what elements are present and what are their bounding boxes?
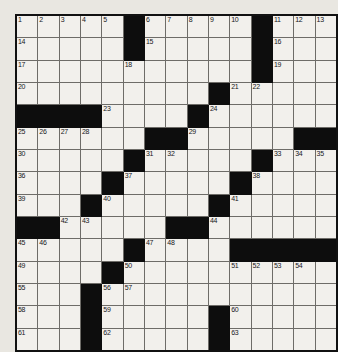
crossword-cell[interactable] — [230, 60, 251, 82]
crossword-cell[interactable] — [230, 283, 251, 305]
crossword-cell[interactable]: 21 — [230, 82, 251, 104]
crossword-cell[interactable] — [208, 239, 229, 261]
crossword-cell[interactable]: 20 — [16, 82, 38, 104]
crossword-cell[interactable] — [272, 127, 293, 149]
crossword-cell[interactable]: 29 — [187, 127, 208, 149]
crossword-cell[interactable] — [187, 60, 208, 82]
crossword-cell[interactable] — [272, 82, 293, 104]
crossword-cell[interactable] — [80, 172, 101, 194]
crossword-cell[interactable] — [230, 127, 251, 149]
crossword-cell[interactable] — [230, 149, 251, 171]
crossword-cell[interactable]: 2 — [38, 15, 59, 38]
crossword-cell[interactable]: 3 — [59, 15, 80, 38]
crossword-cell[interactable] — [272, 105, 293, 127]
crossword-cell[interactable] — [294, 194, 315, 216]
crossword-cell[interactable]: 8 — [187, 15, 208, 38]
crossword-cell[interactable] — [144, 261, 165, 283]
crossword-cell[interactable]: 40 — [102, 194, 123, 216]
crossword-cell[interactable] — [102, 60, 123, 82]
crossword-cell[interactable]: 11 — [272, 15, 293, 38]
crossword-cell[interactable]: 18 — [123, 60, 144, 82]
crossword-cell[interactable] — [38, 283, 59, 305]
crossword-cell[interactable] — [166, 306, 187, 328]
crossword-cell[interactable]: 6 — [144, 15, 165, 38]
crossword-cell[interactable]: 44 — [208, 216, 229, 238]
crossword-cell[interactable] — [38, 82, 59, 104]
crossword-cell[interactable] — [144, 283, 165, 305]
crossword-cell[interactable]: 41 — [230, 194, 251, 216]
crossword-cell[interactable] — [315, 328, 337, 351]
crossword-cell[interactable]: 46 — [38, 239, 59, 261]
crossword-cell[interactable] — [230, 38, 251, 60]
crossword-cell[interactable] — [59, 149, 80, 171]
crossword-cell[interactable] — [38, 38, 59, 60]
crossword-cell[interactable] — [230, 105, 251, 127]
crossword-cell[interactable] — [123, 105, 144, 127]
crossword-cell[interactable] — [80, 60, 101, 82]
crossword-cell[interactable] — [123, 82, 144, 104]
crossword-cell[interactable] — [59, 261, 80, 283]
crossword-cell[interactable]: 50 — [123, 261, 144, 283]
crossword-cell[interactable]: 51 — [230, 261, 251, 283]
crossword-cell[interactable] — [272, 328, 293, 351]
crossword-cell[interactable] — [272, 283, 293, 305]
crossword-cell[interactable]: 43 — [80, 216, 101, 238]
crossword-cell[interactable]: 39 — [16, 194, 38, 216]
crossword-cell[interactable]: 31 — [144, 149, 165, 171]
crossword-cell[interactable] — [123, 328, 144, 351]
crossword-cell[interactable]: 30 — [16, 149, 38, 171]
crossword-cell[interactable]: 36 — [16, 172, 38, 194]
crossword-cell[interactable] — [59, 239, 80, 261]
crossword-cell[interactable] — [272, 172, 293, 194]
crossword-cell[interactable]: 56 — [102, 283, 123, 305]
crossword-cell[interactable] — [102, 38, 123, 60]
crossword-cell[interactable]: 35 — [315, 149, 337, 171]
crossword-cell[interactable] — [166, 82, 187, 104]
crossword-cell[interactable]: 54 — [294, 261, 315, 283]
crossword-cell[interactable]: 14 — [16, 38, 38, 60]
crossword-cell[interactable] — [187, 306, 208, 328]
crossword-cell[interactable] — [59, 194, 80, 216]
crossword-cell[interactable] — [187, 283, 208, 305]
crossword-cell[interactable] — [251, 105, 272, 127]
crossword-cell[interactable]: 33 — [272, 149, 293, 171]
crossword-cell[interactable]: 17 — [16, 60, 38, 82]
crossword-cell[interactable] — [102, 239, 123, 261]
crossword-cell[interactable] — [80, 82, 101, 104]
crossword-cell[interactable] — [187, 149, 208, 171]
crossword-cell[interactable]: 9 — [208, 15, 229, 38]
crossword-cell[interactable] — [315, 105, 337, 127]
crossword-cell[interactable] — [166, 172, 187, 194]
crossword-cell[interactable] — [272, 306, 293, 328]
crossword-cell[interactable]: 42 — [59, 216, 80, 238]
crossword-cell[interactable]: 34 — [294, 149, 315, 171]
crossword-cell[interactable]: 5 — [102, 15, 123, 38]
crossword-cell[interactable]: 57 — [123, 283, 144, 305]
crossword-cell[interactable] — [315, 261, 337, 283]
crossword-cell[interactable] — [144, 216, 165, 238]
crossword-cell[interactable] — [187, 194, 208, 216]
crossword-cell[interactable] — [294, 216, 315, 238]
crossword-cell[interactable] — [166, 105, 187, 127]
crossword-cell[interactable] — [272, 216, 293, 238]
crossword-cell[interactable] — [187, 172, 208, 194]
crossword-cell[interactable]: 7 — [166, 15, 187, 38]
crossword-cell[interactable] — [294, 283, 315, 305]
crossword-cell[interactable] — [251, 127, 272, 149]
crossword-cell[interactable] — [102, 216, 123, 238]
crossword-cell[interactable]: 26 — [38, 127, 59, 149]
crossword-cell[interactable] — [315, 194, 337, 216]
crossword-cell[interactable] — [187, 261, 208, 283]
crossword-cell[interactable] — [294, 82, 315, 104]
crossword-cell[interactable]: 37 — [123, 172, 144, 194]
crossword-cell[interactable] — [208, 149, 229, 171]
crossword-cell[interactable] — [251, 283, 272, 305]
crossword-cell[interactable] — [80, 149, 101, 171]
crossword-cell[interactable] — [315, 60, 337, 82]
crossword-cell[interactable]: 38 — [251, 172, 272, 194]
crossword-cell[interactable]: 12 — [294, 15, 315, 38]
crossword-cell[interactable]: 16 — [272, 38, 293, 60]
crossword-cell[interactable] — [38, 60, 59, 82]
crossword-cell[interactable] — [38, 306, 59, 328]
crossword-cell[interactable] — [123, 306, 144, 328]
